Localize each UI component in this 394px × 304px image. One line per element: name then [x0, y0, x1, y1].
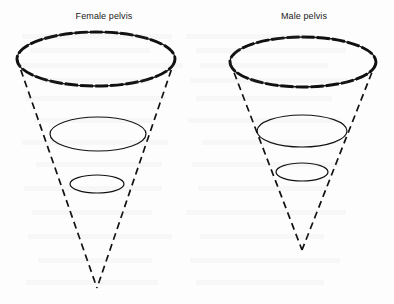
male-mid-pelvis-ellipse [257, 115, 347, 147]
female-pelvis-figure [17, 32, 175, 288]
male-pelvic-outlet-ellipse [276, 163, 328, 181]
female-right-wall-line [97, 59, 175, 288]
male-pelvic-inlet-ellipse-underlay [230, 37, 376, 87]
female-pelvic-outlet-ellipse [70, 175, 124, 193]
male-right-wall-line [302, 62, 376, 250]
male-left-wall-line [230, 62, 302, 250]
pelvis-diagram-canvas [0, 0, 394, 304]
female-pelvis-label: Female pelvis [54, 11, 154, 21]
female-pelvic-inlet-ellipse-underlay [17, 32, 175, 86]
male-pelvis-figure [230, 37, 376, 250]
male-pelvis-label: Male pelvis [254, 11, 354, 21]
female-left-wall-line [17, 59, 97, 288]
female-mid-pelvis-ellipse [50, 117, 146, 151]
pelvis-comparison-figure: Female pelvis Male pelvis [0, 0, 394, 304]
